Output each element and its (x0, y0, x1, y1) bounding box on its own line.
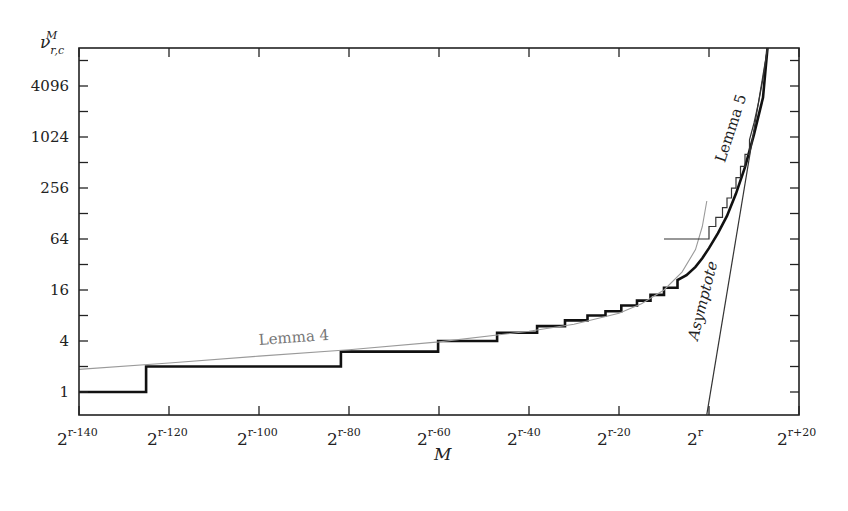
series-layer (79, 48, 768, 415)
x-tick-label: 2r-120 (147, 426, 188, 449)
y-axis-title: νr,cM (40, 29, 64, 57)
y-tick-label: 1024 (31, 128, 69, 146)
x-tick-label: 2r (687, 426, 704, 449)
x-tick-label: 2r-100 (237, 426, 278, 449)
y-tick-label: 4 (59, 332, 69, 350)
x-axis-title: M (433, 444, 452, 464)
x-tick-label: 2r-20 (597, 426, 631, 449)
y-tick-label: 256 (40, 179, 69, 197)
annotation-lemma-4: Lemma 4 (258, 326, 330, 349)
plot-frame (79, 48, 799, 415)
series-lemma-4 (79, 201, 707, 369)
y-tick-label: 4096 (31, 77, 69, 95)
x-tick-label: 2r-80 (327, 426, 361, 449)
series-exact-value-step-function (79, 48, 768, 392)
y-tick-label: 16 (50, 281, 69, 299)
ticks-layer (79, 48, 799, 415)
x-tick-label: 2r-40 (507, 426, 541, 449)
y-tick-label: 64 (50, 230, 69, 248)
x-tick-label: 2r+20 (777, 426, 816, 449)
chart: 2r-1402r-1202r-1002r-802r-602r-402r-202r… (0, 0, 848, 511)
x-tick-label: 2r-140 (57, 426, 98, 449)
y-tick-label: 1 (59, 383, 69, 401)
